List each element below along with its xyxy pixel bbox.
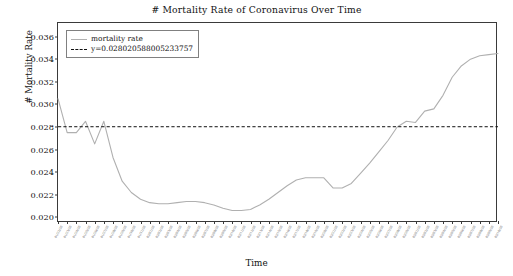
x-tick-mark: [388, 221, 389, 224]
x-tick-mark: [342, 221, 343, 224]
x-tick-mark: [131, 221, 132, 224]
x-tick-mark: [287, 221, 288, 224]
y-tick-mark: [55, 172, 58, 173]
x-tick-mark: [177, 221, 178, 224]
y-tick-mark: [55, 36, 58, 37]
x-tick-mark: [269, 221, 270, 224]
x-tick-mark: [370, 221, 371, 224]
mortality-rate-line: [58, 54, 498, 211]
x-tick-mark: [461, 221, 462, 224]
x-tick-mark: [241, 221, 242, 224]
x-tick-mark: [232, 221, 233, 224]
x-tick-mark: [306, 221, 307, 224]
x-tick-mark: [251, 221, 252, 224]
y-tick-label: 0.028: [31, 122, 54, 132]
y-tick-label: 0.030: [31, 99, 54, 109]
y-tick-label: 0.020: [31, 212, 54, 222]
y-tick-label: 0.034: [31, 54, 54, 64]
y-tick-label: 0.024: [31, 167, 54, 177]
x-tick-mark: [141, 221, 142, 224]
legend-label-mortality-rate: mortality rate: [91, 34, 143, 44]
x-axis-label: Time: [0, 258, 513, 268]
x-tick-mark: [361, 221, 362, 224]
y-tick-label: 0.036: [31, 32, 54, 42]
x-tick-mark: [296, 221, 297, 224]
x-tick-mark: [489, 221, 490, 224]
x-tick-mark: [498, 221, 499, 224]
y-tick-mark: [55, 81, 58, 82]
chart-figure: # Mortality Rate of Coronavirus Over Tim…: [0, 0, 513, 276]
legend-label-threshold: y=0.028020588005233757: [91, 44, 193, 54]
y-tick-mark: [55, 104, 58, 105]
legend-item-threshold: y=0.028020588005233757: [71, 44, 193, 54]
x-tick-mark: [196, 221, 197, 224]
chart-legend: mortality rate y=0.028020588005233757: [66, 30, 199, 58]
x-tick-label: 03/10/20: [494, 225, 504, 239]
x-tick-mark: [278, 221, 279, 224]
x-tick-mark: [168, 221, 169, 224]
x-tick-mark: [406, 221, 407, 224]
x-tick-mark: [434, 221, 435, 224]
x-tick-mark: [58, 221, 59, 224]
chart-title: # Mortality Rate of Coronavirus Over Tim…: [0, 4, 513, 15]
x-tick-mark: [122, 221, 123, 224]
legend-swatch-solid-icon: [71, 36, 87, 43]
y-tick-mark: [55, 126, 58, 127]
x-tick-mark: [324, 221, 325, 224]
x-tick-mark: [260, 221, 261, 224]
legend-swatch-dashed-icon: [71, 46, 87, 53]
legend-item-mortality-rate: mortality rate: [71, 34, 193, 44]
x-tick-mark: [67, 221, 68, 224]
x-tick-mark: [205, 221, 206, 224]
y-tick-label: 0.032: [31, 77, 54, 87]
x-tick-mark: [159, 221, 160, 224]
x-tick-mark: [104, 221, 105, 224]
x-tick-mark: [425, 221, 426, 224]
y-tick-mark: [55, 217, 58, 218]
x-tick-mark: [397, 221, 398, 224]
x-tick-mark: [416, 221, 417, 224]
x-tick-mark: [86, 221, 87, 224]
y-tick-mark: [55, 149, 58, 150]
x-tick-mark: [379, 221, 380, 224]
x-tick-mark: [315, 221, 316, 224]
x-tick-mark: [186, 221, 187, 224]
x-tick-mark: [452, 221, 453, 224]
plot-area: 0.0200.0220.0240.0260.0280.0300.0320.034…: [57, 22, 497, 222]
y-tick-label: 0.026: [31, 145, 54, 155]
y-tick-mark: [55, 59, 58, 60]
x-tick-mark: [471, 221, 472, 224]
x-tick-mark: [333, 221, 334, 224]
x-tick-mark: [480, 221, 481, 224]
x-tick-mark: [95, 221, 96, 224]
y-tick-mark: [55, 194, 58, 195]
x-tick-mark: [76, 221, 77, 224]
x-tick-mark: [214, 221, 215, 224]
x-tick-mark: [351, 221, 352, 224]
x-tick-mark: [443, 221, 444, 224]
y-tick-label: 0.022: [31, 190, 54, 200]
x-tick-mark: [223, 221, 224, 224]
y-axis-label: # Mortality Rate: [24, 0, 34, 142]
x-tick-mark: [113, 221, 114, 224]
x-tick-mark: [150, 221, 151, 224]
